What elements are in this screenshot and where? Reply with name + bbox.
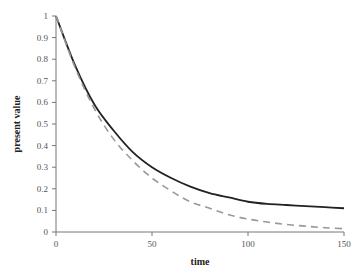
- series-solid-line: [56, 16, 344, 208]
- x-tick-label: 0: [54, 239, 59, 249]
- plot-area: [56, 16, 344, 229]
- y-tick-label: 0.6: [37, 97, 49, 107]
- y-tick-label: 0.2: [37, 184, 48, 194]
- y-tick-label: 0.4: [37, 141, 49, 151]
- y-tick-label: 0.7: [37, 76, 49, 86]
- y-tick-label: 1: [44, 11, 49, 21]
- x-tick-label: 100: [241, 239, 255, 249]
- axes: 00.10.20.30.40.50.60.70.80.91050100150: [37, 11, 352, 249]
- y-tick-label: 0.9: [37, 33, 49, 43]
- x-axis-title: time: [191, 256, 210, 267]
- y-tick-label: 0: [44, 227, 49, 237]
- chart: 00.10.20.30.40.50.60.70.80.91050100150 t…: [0, 0, 362, 278]
- x-tick-label: 50: [148, 239, 158, 249]
- y-tick-label: 0.3: [37, 162, 49, 172]
- y-tick-label: 0.8: [37, 54, 49, 64]
- y-axis-title: present value: [11, 95, 22, 152]
- series-dashed-line: [56, 16, 344, 229]
- y-tick-label: 0.5: [37, 119, 49, 129]
- y-tick-label: 0.1: [37, 205, 48, 215]
- x-tick-label: 150: [337, 239, 351, 249]
